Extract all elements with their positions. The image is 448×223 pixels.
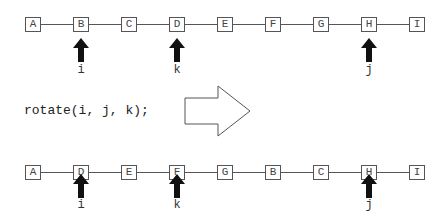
operation-code: rotate(i, j, k); xyxy=(24,103,149,118)
pointer-label: i xyxy=(73,63,89,77)
pointer-label: k xyxy=(169,198,185,212)
pointer-k-before xyxy=(169,38,185,62)
list-node: G xyxy=(217,165,233,180)
pointer-label: k xyxy=(169,63,185,77)
after-list: A D E F G B C H I xyxy=(0,165,448,181)
list-node: G xyxy=(313,17,329,32)
pointer-j-after xyxy=(361,174,377,198)
up-arrow-icon xyxy=(361,174,377,198)
pointer-label: i xyxy=(73,198,89,212)
list-node: F xyxy=(265,17,281,32)
up-arrow-icon xyxy=(361,38,377,62)
up-arrow-icon xyxy=(73,38,89,62)
pointer-label: j xyxy=(361,198,377,212)
list-node: B xyxy=(265,165,281,180)
list-node: B xyxy=(73,17,89,32)
list-node: A xyxy=(25,165,41,180)
before-list: A B C D E F G H I xyxy=(0,17,448,33)
list-node: I xyxy=(409,165,425,180)
pointer-i-after xyxy=(73,174,89,198)
list-node: E xyxy=(217,17,233,32)
list-node: E xyxy=(121,165,137,180)
list-node: A xyxy=(25,17,41,32)
list-node: C xyxy=(121,17,137,32)
pointer-k-after xyxy=(169,174,185,198)
list-node: H xyxy=(361,17,377,32)
up-arrow-icon xyxy=(169,174,185,198)
up-arrow-icon xyxy=(73,174,89,198)
right-arrow-icon xyxy=(184,85,252,142)
up-arrow-icon xyxy=(169,38,185,62)
pointer-label: j xyxy=(361,63,377,77)
pointer-j-before xyxy=(361,38,377,62)
list-node: C xyxy=(313,165,329,180)
list-node: I xyxy=(409,17,425,32)
pointer-i-before xyxy=(73,38,89,62)
list-node: D xyxy=(169,17,185,32)
